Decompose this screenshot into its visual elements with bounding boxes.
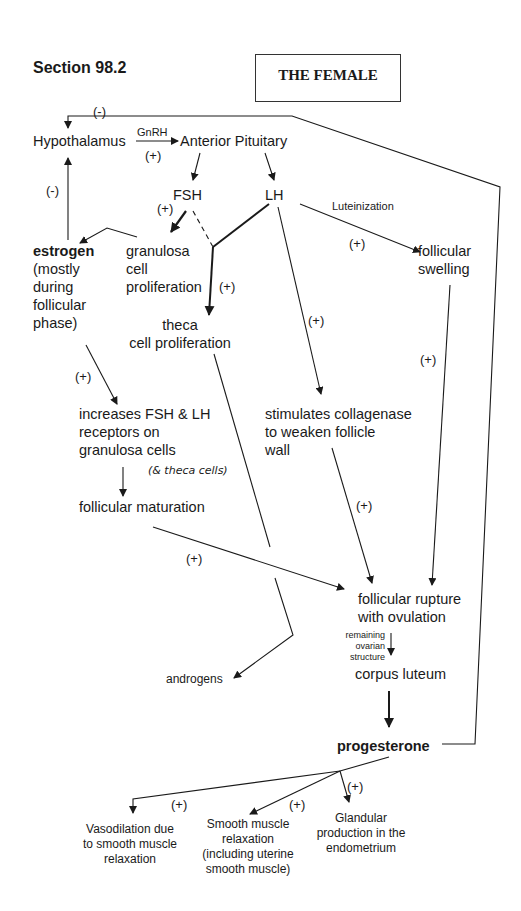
label-pos-glandular: (+) [347,780,363,794]
node-estrogen: estrogen [33,242,94,260]
ap-to-fsh-arrow [193,153,200,180]
node-smooth-muscle-relaxation: Smooth muscle relaxation (including uter… [193,817,303,877]
node-anterior-pituitary: Anterior Pituitary [180,132,287,150]
node-follicular-swelling: follicular swelling [418,242,471,278]
node-androgens: androgens [166,673,223,686]
label-pos-lh-theca: (+) [219,280,235,294]
label-pos-swelling: (+) [420,353,436,367]
swelling-to-rupture-arrow [432,285,450,585]
maturation-to-rupture-arrow [153,527,344,589]
label-pos-collagenase: (+) [356,499,372,513]
lh-to-collagenase-arrow [278,207,321,394]
label-pos-fsh: (+) [157,202,173,216]
junction-to-theca-arrow [209,247,213,315]
label-luteinization: Luteinization [332,200,394,213]
node-corpus-luteum: corpus luteum [355,665,446,683]
node-estrogen-note: (mostly during follicular phase) [33,260,86,332]
collagenase-to-rupture-arrow [332,448,372,583]
title-box: THE FEMALE [255,54,401,102]
node-lh: LH [265,186,284,204]
theca-line-upper [214,354,270,547]
node-theca-proliferation: theca cell proliferation [126,316,234,352]
label-gnrh: GnRH [137,126,168,139]
node-hypothalamus: Hypothalamus [33,132,126,150]
ap-to-lh-arrow [265,153,274,180]
label-pos-smooth-muscle: (+) [289,798,305,812]
label-pos-maturation: (+) [186,552,202,566]
label-neg-left: (-) [46,184,59,198]
label-pos-luteinization: (+) [349,237,365,251]
label-pos-gnrh: (+) [145,149,161,163]
node-increases-receptors: increases FSH & LH receptors on granulos… [79,405,210,459]
section-title: Section 98.2 [33,59,126,77]
label-pos-vasodilation: (+) [171,798,187,812]
node-vasodilation: Vasodilation due to smooth muscle relaxa… [75,822,185,867]
node-progesterone: progesterone [337,737,430,755]
page-title: THE FEMALE [256,67,400,84]
node-collagenase: stimulates collagenase to weaken follicl… [265,405,412,459]
node-remaining-structure: remaining ovarian structure [322,630,385,663]
granulosa-to-estrogen-arrow [80,228,137,243]
label-pos-estrogen: (+) [75,370,91,384]
theca-to-androgens-arrow [234,578,293,678]
fsh-to-granulosa-arrow [171,211,186,232]
node-granulosa-proliferation: granulosa cell proliferation [126,242,202,296]
node-theca-cells-note: (& theca cells) [148,464,228,477]
label-neg-top: (-) [93,103,106,121]
lh-to-junction-line [213,204,269,247]
node-follicular-maturation: follicular maturation [79,498,205,516]
node-follicular-rupture: follicular rupture with ovulation [358,590,461,626]
progesterone-stem [340,757,389,771]
to-vasodilation-arrow [133,771,340,813]
node-glandular-production: Glandular production in the endometrium [306,811,416,856]
node-fsh: FSH [173,186,202,204]
label-pos-lh-collagenase: (+) [308,314,324,328]
